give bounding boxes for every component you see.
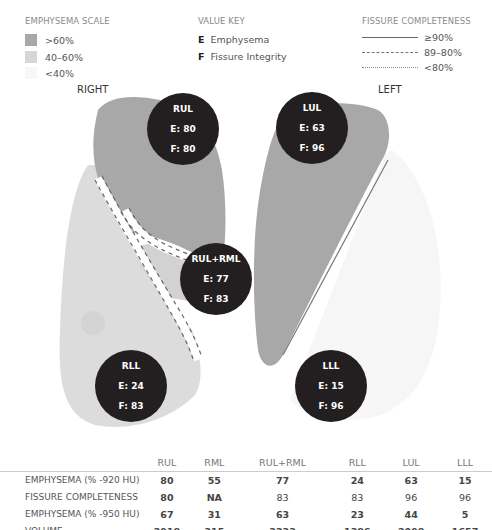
col-header: RLL: [330, 457, 384, 472]
col-header: RUL: [140, 457, 194, 472]
table-cell: 67: [140, 506, 194, 523]
col-header: RUL+RML: [235, 457, 331, 472]
lobe-emphysema: E: 15: [318, 376, 343, 396]
table-cell: 55: [194, 472, 235, 489]
table-cell: 3233: [235, 523, 331, 530]
col-header: LUL: [384, 457, 438, 472]
lobe-name: RUL+RML: [191, 249, 240, 269]
lobe-emphysema: E: 24: [118, 376, 143, 396]
col-header: RML: [194, 457, 235, 472]
table-row: EMPHYSEMA (% -950 HU) 67 31 63 23 44 5: [0, 506, 492, 523]
row-label: VOLUME: [0, 523, 140, 530]
table-cell: 15: [438, 472, 492, 489]
table-cell: 1386: [330, 523, 384, 530]
table-cell: 63: [235, 506, 331, 523]
lung-diagram: [0, 0, 492, 460]
row-label: EMPHYSEMA (% -920 HU): [0, 472, 140, 489]
table-header-row: RUL RML RUL+RML RLL LUL LLL: [0, 457, 492, 472]
lobe-fissure: F: 96: [319, 396, 344, 416]
col-header: LLL: [438, 457, 492, 472]
table-cell: 44: [384, 506, 438, 523]
lobe-bubble-rul-rml: RUL+RML E: 77 F: 83: [180, 243, 252, 315]
table-cell: 1657: [438, 523, 492, 530]
table-row: VOLUME 2918 315 3233 1386 2098 1657: [0, 523, 492, 530]
table-cell: 31: [194, 506, 235, 523]
table-cell: 2918: [140, 523, 194, 530]
lobe-fissure: F: 83: [119, 396, 144, 416]
rll-marker: [81, 311, 105, 335]
table-cell: 80: [140, 489, 194, 506]
table-cell: 80: [140, 472, 194, 489]
table-cell: 2098: [384, 523, 438, 530]
row-label: EMPHYSEMA (% -950 HU): [0, 506, 140, 523]
row-label: FISSURE COMPLETENESS: [0, 489, 140, 506]
lobe-fissure: F: 83: [204, 289, 229, 309]
table-cell: 96: [384, 489, 438, 506]
table-cell: 23: [330, 506, 384, 523]
table-cell: 83: [330, 489, 384, 506]
lobe-name: LUL: [303, 98, 321, 118]
lobe-bubble-rul: RUL E: 80 F: 80: [147, 93, 219, 165]
table-cell: 77: [235, 472, 331, 489]
table-cell: 83: [235, 489, 331, 506]
lobe-emphysema: E: 63: [299, 118, 324, 138]
lobe-name: RLL: [122, 356, 140, 376]
table-cell: 96: [438, 489, 492, 506]
header-blank: [0, 457, 140, 472]
table-cell: 5: [438, 506, 492, 523]
lobe-emphysema: E: 80: [170, 119, 195, 139]
lobe-emphysema: E: 77: [203, 269, 228, 289]
table-row: EMPHYSEMA (% -920 HU) 80 55 77 24 63 15: [0, 472, 492, 489]
lobe-bubble-lll: LLL E: 15 F: 96: [295, 350, 367, 422]
table-cell: 315: [194, 523, 235, 530]
lobe-name: RUL: [173, 99, 193, 119]
table-cell: NA: [194, 489, 235, 506]
lobe-name: LLL: [322, 356, 339, 376]
table-cell: 24: [330, 472, 384, 489]
lobe-fissure: F: 80: [171, 139, 196, 159]
table-cell: 63: [384, 472, 438, 489]
lobe-bubble-rll: RLL E: 24 F: 83: [95, 350, 167, 422]
table-row: FISSURE COMPLETENESS 80 NA 83 83 96 96: [0, 489, 492, 506]
lobe-fissure: F: 96: [300, 138, 325, 158]
lobe-bubble-lul: LUL E: 63 F: 96: [276, 92, 348, 164]
lobe-data-table: RUL RML RUL+RML RLL LUL LLL EMPHYSEMA (%…: [0, 457, 492, 530]
